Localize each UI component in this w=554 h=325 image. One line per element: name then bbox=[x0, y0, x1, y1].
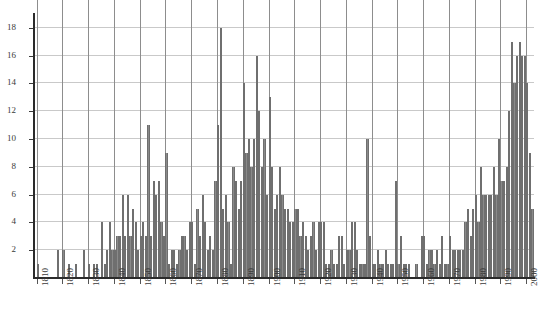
y-tick-label-6: 6 bbox=[12, 190, 17, 199]
x-tick-mark-1940 bbox=[372, 279, 373, 284]
y-tick-mark-2 bbox=[29, 250, 33, 251]
x-tick-label-1850: 1850 bbox=[144, 268, 153, 286]
y-tick-label-8: 8 bbox=[12, 162, 17, 171]
y-tick-mark-12 bbox=[29, 111, 33, 112]
x-tick-mark-1960 bbox=[423, 279, 424, 284]
chart-figure: 24681012141618 1810182018301840185018601… bbox=[0, 0, 554, 325]
y-tick-label-12: 12 bbox=[7, 106, 16, 115]
y-tick-mark-4 bbox=[29, 222, 33, 223]
x-tick-label-1820: 1820 bbox=[66, 268, 75, 286]
bar bbox=[37, 264, 39, 278]
y-tick-mark-8 bbox=[29, 167, 33, 168]
x-tick-mark-1930 bbox=[346, 279, 347, 284]
x-tick-label-1920: 1920 bbox=[324, 268, 333, 286]
x-tick-label-1940: 1940 bbox=[376, 268, 385, 286]
x-tick-mark-1950 bbox=[397, 279, 398, 284]
x-tick-label-1930: 1930 bbox=[350, 268, 359, 286]
bar bbox=[83, 250, 85, 278]
bar bbox=[57, 250, 59, 278]
bar bbox=[415, 264, 417, 278]
x-tick-label-2000: 2000 bbox=[530, 268, 539, 286]
x-tick-mark-1900 bbox=[269, 279, 270, 284]
x-tick-mark-1810 bbox=[37, 279, 38, 284]
x-tick-label-1830: 1830 bbox=[92, 268, 101, 286]
x-tick-label-1990: 1990 bbox=[504, 268, 513, 286]
y-tick-label-18: 18 bbox=[7, 23, 16, 32]
y-tick-mark-6 bbox=[29, 195, 33, 196]
x-tick-mark-1870 bbox=[191, 279, 192, 284]
x-tick-label-1860: 1860 bbox=[169, 268, 178, 286]
x-tick-label-1970: 1970 bbox=[453, 268, 462, 286]
x-tick-mark-1910 bbox=[294, 279, 295, 284]
y-tick-mark-14 bbox=[29, 83, 33, 84]
y-tick-label-10: 10 bbox=[7, 134, 16, 143]
x-tick-label-1890: 1890 bbox=[247, 268, 256, 286]
x-tick-label-1880: 1880 bbox=[221, 268, 230, 286]
x-tick-label-1840: 1840 bbox=[118, 268, 127, 286]
y-tick-mark-10 bbox=[29, 139, 33, 140]
y-tick-label-4: 4 bbox=[12, 217, 17, 226]
bar bbox=[88, 264, 90, 278]
x-tick-mark-1850 bbox=[140, 279, 141, 284]
x-tick-mark-2000 bbox=[526, 279, 527, 284]
y-tick-mark-18 bbox=[29, 28, 33, 29]
x-tick-mark-1880 bbox=[217, 279, 218, 284]
x-tick-label-1980: 1980 bbox=[479, 268, 488, 286]
x-tick-label-1810: 1810 bbox=[41, 268, 50, 286]
y-axis-line bbox=[33, 13, 35, 279]
x-tick-label-1910: 1910 bbox=[298, 268, 307, 286]
y-tick-mark-16 bbox=[29, 56, 33, 57]
x-tick-mark-1990 bbox=[500, 279, 501, 284]
x-tick-label-1950: 1950 bbox=[401, 268, 410, 286]
x-tick-label-1870: 1870 bbox=[195, 268, 204, 286]
x-tick-mark-1970 bbox=[449, 279, 450, 284]
bar bbox=[75, 264, 77, 278]
x-tick-label-1900: 1900 bbox=[273, 268, 282, 286]
bar-series bbox=[34, 14, 534, 278]
x-tick-label-1960: 1960 bbox=[427, 268, 436, 286]
x-tick-mark-1830 bbox=[88, 279, 89, 284]
x-tick-mark-1860 bbox=[165, 279, 166, 284]
x-tick-mark-1840 bbox=[114, 279, 115, 284]
y-tick-label-2: 2 bbox=[12, 245, 17, 254]
y-tick-label-16: 16 bbox=[7, 51, 16, 60]
plot-area bbox=[34, 14, 534, 278]
x-tick-mark-1820 bbox=[62, 279, 63, 284]
x-tick-mark-1890 bbox=[243, 279, 244, 284]
bar bbox=[165, 153, 167, 278]
y-tick-label-14: 14 bbox=[7, 78, 16, 87]
x-tick-mark-1920 bbox=[320, 279, 321, 284]
x-tick-mark-1980 bbox=[475, 279, 476, 284]
